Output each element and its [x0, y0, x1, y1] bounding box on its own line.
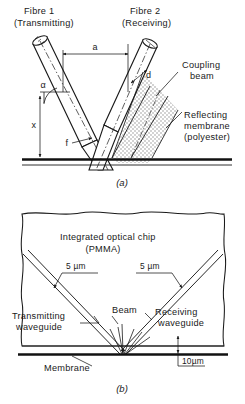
figure-a-canvas: a d x α f [0, 0, 245, 200]
transmitting-waveguide-label-line1: Transmitting [12, 311, 65, 321]
fibre-1-label-line1: Fibre 1 [24, 6, 54, 16]
figure-b-optical-chip: 10µm 5 µm 5 µm Integrated optical chip (… [0, 196, 245, 404]
beam-label: Beam [112, 305, 137, 315]
chip-label-line2: (PMMA) [85, 244, 120, 254]
dimension-f-label: f [65, 138, 68, 148]
reflecting-membrane-label-line1: Reflecting [184, 110, 227, 120]
coupling-beam-label-line2: beam [190, 71, 214, 81]
figure-b-caption: (b) [116, 383, 128, 394]
fibre-2-label-line1: Fibre 2 [130, 6, 160, 16]
fibre-2-label-line2: (Receiving) [122, 18, 171, 28]
figure-page: a d x α f [0, 0, 245, 404]
fibre-1-label-line2: (Transmitting) [14, 18, 74, 28]
chip-label-line1: Integrated optical chip [60, 232, 156, 242]
reflecting-membrane-label-line2: membrane [184, 121, 230, 131]
transmitting-waveguide-label-line2: waveguide [15, 322, 62, 332]
dimension-d-label: d [146, 70, 151, 80]
angle-alpha-label: α [40, 80, 45, 90]
dimension-x-label: x [32, 120, 37, 130]
figure-a-caption: (a) [116, 177, 128, 188]
coupling-beam-label-line1: Coupling [182, 60, 220, 70]
membrane-label: Membrane [44, 363, 90, 373]
receiving-waveguide-label-line2: waveguide [157, 318, 204, 328]
dimension-a-label: a [92, 42, 97, 52]
figure-b-canvas: 10µm 5 µm 5 µm Integrated optical chip (… [0, 196, 245, 404]
waveguide-width-left-label: 5 µm [66, 261, 86, 271]
gap-dimension-label: 10µm [182, 356, 204, 366]
receiving-waveguide-label-line1: Receiving [155, 307, 198, 317]
waveguide-width-right-label: 5 µm [140, 261, 160, 271]
figure-a-fibre-pair: a d x α f [0, 0, 245, 200]
reflecting-membrane-label-line3: (polyester) [184, 132, 230, 142]
